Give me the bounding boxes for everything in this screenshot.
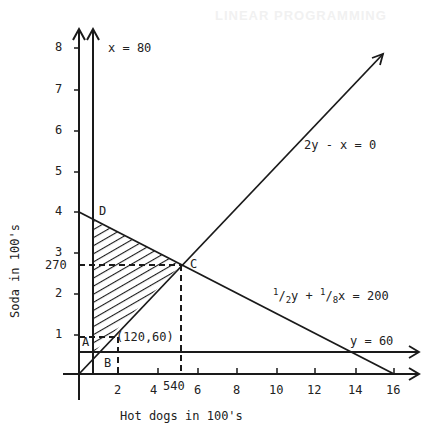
y-tick-label: 2 <box>55 287 62 299</box>
y-tick-label: 3 <box>55 246 62 258</box>
point-label-d: D <box>99 205 106 217</box>
x-tick-label: 10 <box>269 384 283 396</box>
point-label-c: C <box>190 258 197 270</box>
y-tick-label: 4 <box>55 205 62 217</box>
x-tick-label-540: 540 <box>163 380 185 392</box>
frac-num: 1 <box>320 287 325 297</box>
frac-var: y + <box>291 289 320 303</box>
y-tick-label: 1 <box>55 328 62 340</box>
x-tick-label: 4 <box>150 384 157 396</box>
point-label-120-60: (120,60) <box>116 331 174 343</box>
y-tick-label: 6 <box>55 124 62 136</box>
label-constraint-200: 1/2y + 1/8x = 200 <box>273 288 389 305</box>
label-y-60: y = 60 <box>350 335 393 347</box>
x-tick-label: 14 <box>348 384 362 396</box>
x-tick-label: 6 <box>194 384 201 396</box>
y-tick-label: 5 <box>55 165 62 177</box>
x-axis <box>63 368 419 380</box>
x-tick-label: 12 <box>307 384 321 396</box>
x-tick-label: 8 <box>233 384 240 396</box>
y-axis-title: Soda in 100's <box>8 224 22 318</box>
x-axis-title: Hot dogs in 100's <box>120 410 243 422</box>
y-tick-label: 8 <box>55 41 62 53</box>
y-tick-label-270: 270 <box>45 259 67 271</box>
point-label-a: A <box>82 336 89 348</box>
x-tick-label: 16 <box>386 384 400 396</box>
lp-graph <box>0 0 446 439</box>
x-tick-label: 2 <box>114 384 121 396</box>
point-label-b: B <box>104 357 111 369</box>
label-2y-minus-x: 2y - x = 0 <box>304 139 376 151</box>
line-2y-minus-x <box>79 54 383 374</box>
frac-num: 1 <box>273 287 278 297</box>
y-tick-label: 7 <box>55 83 62 95</box>
frac-var: x = 200 <box>338 289 389 303</box>
label-x-80: x = 80 <box>108 42 151 54</box>
